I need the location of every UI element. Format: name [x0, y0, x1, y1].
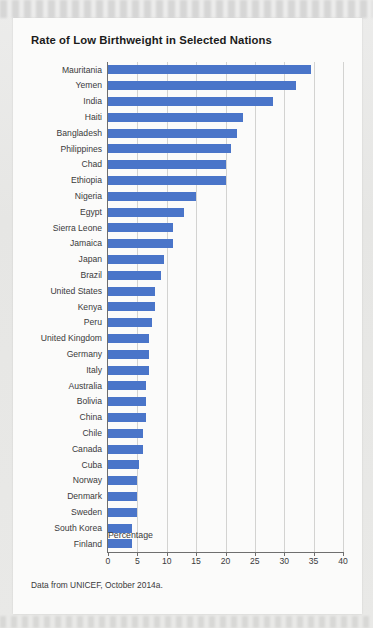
bar: [108, 508, 137, 517]
bar-category-label: Ethiopia: [71, 176, 102, 185]
bar-row: Brazil: [108, 267, 343, 283]
bar: [108, 350, 149, 359]
bar-row: Kenya: [108, 299, 343, 315]
bar-category-label: China: [80, 413, 102, 422]
bar: [108, 223, 173, 232]
bar-category-label: Australia: [69, 382, 102, 391]
bar-row: Mauritania: [108, 62, 343, 78]
bar: [108, 144, 231, 153]
bar-row: United States: [108, 283, 343, 299]
bar-category-label: Denmark: [67, 492, 102, 501]
page-text-bleed-top: [0, 0, 373, 18]
bar-row: Canada: [108, 441, 343, 457]
bar-row: Egypt: [108, 204, 343, 220]
bar-category-label: Finland: [74, 540, 102, 549]
bar: [108, 445, 143, 454]
bar-category-label: Jamaica: [70, 239, 102, 248]
bar-row: Peru: [108, 315, 343, 331]
bar-row: India: [108, 94, 343, 110]
chart-title: Rate of Low Birthweight in Selected Nati…: [31, 34, 272, 46]
bar: [108, 492, 137, 501]
bar: [108, 255, 164, 264]
bar-row: Nigeria: [108, 188, 343, 204]
bar-row: Ethiopia: [108, 173, 343, 189]
bar: [108, 287, 155, 296]
source-note: Data from UNICEF, October 2014a.: [31, 580, 163, 590]
bar-category-label: Chile: [82, 429, 102, 438]
x-tick-label: 0: [106, 556, 111, 566]
bar: [108, 366, 149, 375]
bar: [108, 429, 143, 438]
x-tick-label: 10: [162, 556, 172, 566]
bar-row: Norway: [108, 473, 343, 489]
bar-category-label: Bolivia: [77, 397, 102, 406]
bar-category-label: Mauritania: [62, 66, 102, 75]
bar-category-label: Nigeria: [75, 192, 102, 201]
bar-category-label: Sweden: [71, 508, 102, 517]
bar: [108, 539, 132, 548]
bar-category-label: Chad: [81, 160, 102, 169]
bar: [108, 460, 139, 469]
bar-row: China: [108, 410, 343, 426]
bar: [108, 160, 226, 169]
page-text-bleed-bottom: [0, 616, 373, 628]
bar: [108, 302, 155, 311]
bar-category-label: Peru: [84, 318, 102, 327]
bar-category-label: Sierra Leone: [53, 224, 102, 233]
bar-row: Philippines: [108, 141, 343, 157]
bar: [108, 176, 226, 185]
bar: [108, 318, 152, 327]
bar-category-label: Italy: [86, 366, 102, 375]
bar: [108, 208, 184, 217]
gridline: [343, 62, 344, 552]
bar: [108, 239, 173, 248]
bar-row: Australia: [108, 378, 343, 394]
bar-category-label: Philippines: [60, 145, 102, 154]
plot-area: MauritaniaYemenIndiaHaitiBangladeshPhili…: [107, 62, 343, 553]
chart-card: Rate of Low Birthweight in Selected Nati…: [13, 18, 362, 614]
bar-category-label: Norway: [73, 476, 102, 485]
x-tick-label: 20: [221, 556, 231, 566]
bar-row: Japan: [108, 252, 343, 268]
x-tick-label: 25: [250, 556, 260, 566]
bar: [108, 97, 273, 106]
bar: [108, 271, 161, 280]
bar-category-label: Brazil: [81, 271, 103, 280]
bar: [108, 129, 237, 138]
bar-category-label: Cuba: [81, 461, 102, 470]
bar-row: Germany: [108, 346, 343, 362]
bar-category-label: Haiti: [85, 113, 102, 122]
bar-row: Italy: [108, 362, 343, 378]
x-tick-label: 35: [309, 556, 319, 566]
bar-row: United Kingdom: [108, 331, 343, 347]
bar-row: Bangladesh: [108, 125, 343, 141]
x-tick-label: 40: [338, 556, 348, 566]
bar-row: Bolivia: [108, 394, 343, 410]
bar: [108, 334, 149, 343]
bar-row: Haiti: [108, 109, 343, 125]
bar: [108, 81, 296, 90]
bar-category-label: Yemen: [76, 81, 102, 90]
x-tick-label: 5: [135, 556, 140, 566]
bar: [108, 397, 146, 406]
bar-row: Cuba: [108, 457, 343, 473]
bar-row: Sierra Leone: [108, 220, 343, 236]
bar-category-label: United Kingdom: [41, 334, 102, 343]
bar: [108, 413, 146, 422]
bar-category-label: United States: [50, 287, 102, 296]
x-axis-ticks: 0510152025303540: [108, 552, 343, 568]
bar-row: Jamaica: [108, 236, 343, 252]
bar-series: MauritaniaYemenIndiaHaitiBangladeshPhili…: [108, 62, 343, 552]
bar-category-label: Bangladesh: [57, 129, 102, 138]
bar-category-label: Egypt: [80, 208, 102, 217]
bar-category-label: Japan: [79, 255, 102, 264]
x-tick-label: 30: [279, 556, 289, 566]
bar-category-label: Kenya: [78, 303, 102, 312]
bar-row: Sweden: [108, 504, 343, 520]
bar-category-label: India: [83, 97, 102, 106]
bar-category-label: Canada: [72, 445, 102, 454]
bar-row: Denmark: [108, 489, 343, 505]
bar-row: Chad: [108, 157, 343, 173]
bar: [108, 113, 243, 122]
bar: [108, 476, 137, 485]
